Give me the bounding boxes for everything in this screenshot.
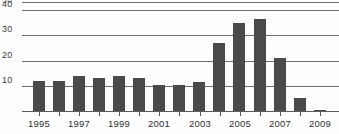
x-axis-tick-2002 xyxy=(179,112,180,116)
plot-area xyxy=(22,0,339,112)
x-axis-label-2001: 2001 xyxy=(148,119,170,129)
x-axis-tick-2007 xyxy=(280,112,281,116)
x-axis-tick-2003 xyxy=(200,112,201,116)
x-axis-tick-1999 xyxy=(119,112,120,116)
x-axis-label-2009: 2009 xyxy=(309,119,331,129)
bars-layer xyxy=(22,0,339,112)
x-axis-tick-2006 xyxy=(260,112,261,116)
bar-1997 xyxy=(73,76,85,111)
x-axis-tick-2008 xyxy=(300,112,301,116)
x-axis-tick-2009 xyxy=(320,112,321,116)
bar-2001 xyxy=(153,85,165,111)
bar-2007 xyxy=(274,58,286,111)
x-axis-label-1997: 1997 xyxy=(68,119,90,129)
x-axis-tick-1996 xyxy=(59,112,60,116)
x-axis-tick-1997 xyxy=(79,112,80,116)
x-axis-tick-1995 xyxy=(39,112,40,116)
y-axis-label-20: 20 xyxy=(2,51,12,60)
x-axis-label-2005: 2005 xyxy=(229,119,251,129)
bar-2004 xyxy=(213,43,225,111)
y-axis-label-40: 40 xyxy=(2,0,12,9)
x-axis-tick-2001 xyxy=(159,112,160,116)
y-axis-label-10: 10 xyxy=(2,76,12,85)
bar-2006 xyxy=(254,19,266,111)
x-axis-label-1999: 1999 xyxy=(108,119,130,129)
bar-2005 xyxy=(233,23,245,111)
x-axis: 19951997199920012003200520072009 xyxy=(22,112,339,134)
bar-1999 xyxy=(113,76,125,111)
bar-chart: 50 40 30 20 10 1995199719992001200320052… xyxy=(0,0,339,134)
x-axis-label-2003: 2003 xyxy=(189,119,211,129)
x-axis-tick-2005 xyxy=(240,112,241,116)
bar-2003 xyxy=(193,82,205,111)
x-axis-label-1995: 1995 xyxy=(28,119,50,129)
x-axis-tick-2004 xyxy=(220,112,221,116)
x-axis-tick-1998 xyxy=(99,112,100,116)
bar-2008 xyxy=(294,98,306,111)
bar-1995 xyxy=(33,81,45,111)
bar-1996 xyxy=(53,81,65,111)
bar-1998 xyxy=(93,78,105,111)
bar-2002 xyxy=(173,85,185,111)
bar-2000 xyxy=(133,78,145,111)
x-axis-tick-2000 xyxy=(139,112,140,116)
y-axis-label-30: 30 xyxy=(2,25,12,34)
x-axis-label-2007: 2007 xyxy=(269,119,291,129)
bar-2009 xyxy=(314,110,326,111)
